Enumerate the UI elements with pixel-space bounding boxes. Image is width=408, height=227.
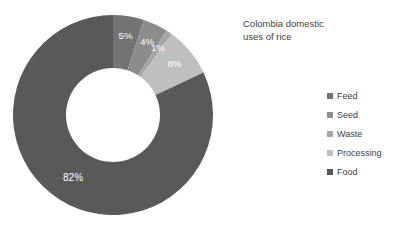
donut-chart-svg: 5%4%1%8%82%	[13, 15, 213, 215]
donut-slice-group	[13, 15, 213, 215]
donut-chart-plot-area: 5%4%1%8%82%	[13, 15, 213, 215]
chart-title: Colombia domestic uses of rice	[243, 17, 393, 43]
legend-swatch-icon	[327, 131, 333, 137]
legend-item-label: Food	[337, 167, 358, 177]
legend-item-feed[interactable]: Feed	[327, 86, 405, 105]
legend-item-label: Processing	[337, 148, 382, 158]
legend-swatch-icon	[327, 150, 333, 156]
slice-value-label-waste: 1%	[151, 42, 165, 53]
donut-chart-figure: 5%4%1%8%82% Colombia domestic uses of ri…	[0, 0, 408, 227]
legend-item-waste[interactable]: Waste	[327, 124, 405, 143]
slice-value-label-feed: 5%	[119, 30, 133, 41]
legend-swatch-icon	[327, 93, 333, 99]
slice-value-label-food: 82%	[63, 172, 83, 183]
legend-swatch-icon	[327, 112, 333, 118]
legend-item-label: Seed	[337, 110, 358, 120]
slice-value-label-processing: 8%	[168, 58, 182, 69]
chart-legend: FeedSeedWasteProcessingFood	[327, 86, 405, 181]
legend-item-label: Feed	[337, 91, 358, 101]
legend-item-seed[interactable]: Seed	[327, 105, 405, 124]
legend-item-processing[interactable]: Processing	[327, 143, 405, 162]
legend-swatch-icon	[327, 169, 333, 175]
legend-item-label: Waste	[337, 129, 362, 139]
legend-item-food[interactable]: Food	[327, 162, 405, 181]
